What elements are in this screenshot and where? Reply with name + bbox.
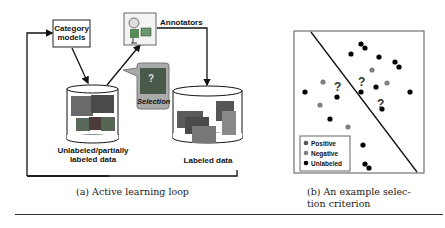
question-mark-2: ? xyxy=(358,75,365,89)
labeled-data-label: Labeled data xyxy=(180,156,236,165)
caption-b-line1: (b) An example selec- xyxy=(307,186,411,198)
unlabeled-data-label: Unlabeled/partially labeled data xyxy=(52,146,134,164)
legend-negative: Negative xyxy=(311,149,342,159)
question-mark-1: ? xyxy=(334,80,341,94)
annotators-label: Annotators xyxy=(160,18,203,27)
figure-bottom-rule xyxy=(15,214,443,215)
legend-unlabeled: Unlabeled xyxy=(311,159,342,169)
legend: Positive Negative Unlabeled xyxy=(311,139,342,169)
legend-positive: Positive xyxy=(311,139,342,149)
selection-question-mark: ? xyxy=(148,73,154,84)
unlabeled-line2: labeled data xyxy=(52,155,134,164)
category-models-line2: models xyxy=(53,33,90,42)
selection-label: Selection xyxy=(137,97,170,106)
category-models-line1: Category xyxy=(53,24,90,33)
caption-a: (a) Active learning loop xyxy=(76,186,189,198)
unlabeled-line1: Unlabeled/partially xyxy=(52,146,134,155)
category-models-label: Category models xyxy=(53,24,90,42)
question-mark-3: ? xyxy=(377,97,384,111)
caption-b: (b) An example selec- tion criterion xyxy=(307,186,411,210)
caption-b-line2: tion criterion xyxy=(307,198,411,210)
